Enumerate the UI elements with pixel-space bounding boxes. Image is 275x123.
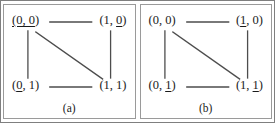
graph-a: (0, 0) (1, 0) (0, 1) (1, 1) (a) [4,5,135,118]
vertex-a-tl-close: ) [35,13,39,27]
edge-diagonal-a [36,32,103,79]
vertex-label-top-left-a: (0, 0) [12,14,39,27]
vertex-label-bottom-left-b: (0, 1) [149,79,176,92]
graph-b: (0, 0) (1, 0) (0, 1) (1, 1) (b) [141,5,272,118]
figure-frame: (0, 0) (1, 0) (0, 1) (1, 1) (a) (0, 0) (… [0,0,275,123]
panel-a: (0, 0) (1, 0) (0, 1) (1, 1) (a) [3,4,136,119]
vertex-label-bottom-right-a: (1, 1) [99,79,126,92]
vertex-label-bottom-right-b: (1, 1) [236,79,263,92]
vertex-b-tr-close: ) [259,13,263,27]
vertex-label-top-right-a: (1, 0) [99,14,126,27]
vertex-label-top-left-b: (0, 0) [149,14,176,27]
vertex-a-tl-underlined: (0, 0 [12,13,35,27]
edge-diagonal-b [172,32,239,79]
vertex-a-br-close: ) [122,78,126,92]
vertex-a-bl-close: ) [35,78,39,92]
panel-caption-a: (a) [4,102,135,114]
vertex-b-br-close: ) [259,78,263,92]
vertex-b-bl-close: ) [171,78,175,92]
panel-caption-b: (b) [141,102,272,114]
panel-b: (0, 0) (1, 0) (0, 1) (1, 1) (b) [140,4,273,119]
vertex-a-tr-close: ) [122,13,126,27]
vertex-label-bottom-left-a: (0, 1) [12,79,39,92]
vertex-b-tl-close: ) [171,13,175,27]
vertex-label-top-right-b: (1, 0) [236,14,263,27]
